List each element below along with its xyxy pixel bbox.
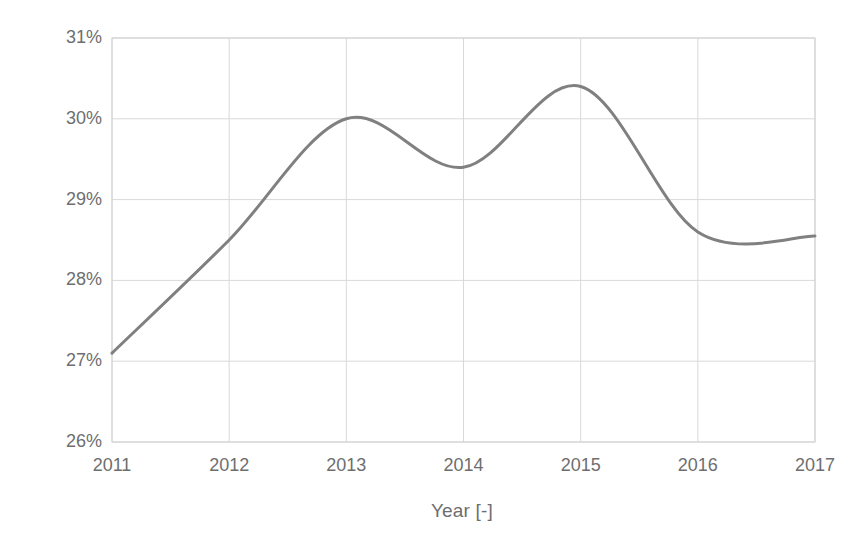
x-tick-label: 2017 <box>775 455 853 476</box>
gridlines <box>112 38 815 442</box>
y-tick-label: 31% <box>42 27 102 48</box>
x-tick-label: 2012 <box>189 455 269 476</box>
x-tick-label: 2015 <box>541 455 621 476</box>
x-axis-title: Year [-] <box>312 500 612 522</box>
x-axis-tick-labels: 2011201220132014201520162017 <box>0 455 853 485</box>
y-tick-label: 30% <box>42 108 102 129</box>
y-tick-label: 28% <box>42 269 102 290</box>
y-tick-label: 27% <box>42 350 102 371</box>
y-tick-label: 26% <box>42 431 102 452</box>
x-tick-label: 2016 <box>658 455 738 476</box>
recycling-rate-line-chart: 26%27%28%29%30%31% 201120122013201420152… <box>0 0 853 552</box>
x-tick-label: 2013 <box>306 455 386 476</box>
x-tick-label: 2014 <box>424 455 504 476</box>
x-tick-label: 2011 <box>72 455 152 476</box>
y-tick-label: 29% <box>42 189 102 210</box>
